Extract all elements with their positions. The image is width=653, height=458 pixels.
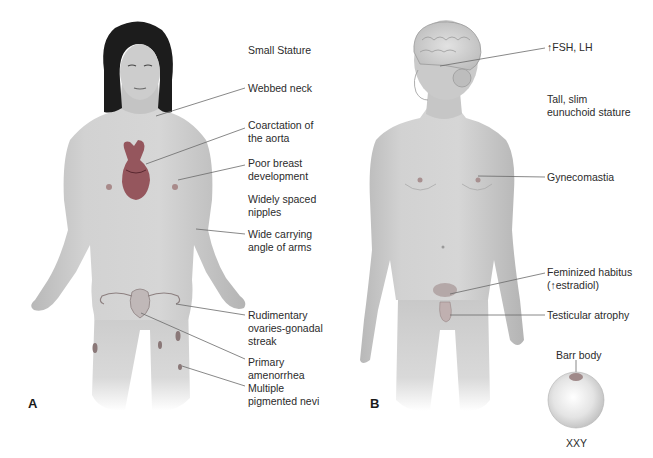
xxy-cell: [548, 372, 604, 428]
label-rudimentary-ovaries: Rudimentary ovaries-gonadal streak: [248, 309, 323, 348]
panel-letter-b: B: [370, 396, 379, 411]
label-small-stature: Small Stature: [248, 44, 311, 57]
label-pigmented-nevi: Multiple pigmented nevi: [248, 382, 319, 408]
female-figure: [31, 21, 245, 410]
male-nipple-right: [476, 178, 481, 183]
label-fsh-lh: ↑FSH, LH: [547, 41, 593, 54]
panel-letter-a: A: [28, 396, 37, 411]
female-face: [120, 44, 160, 100]
illustration-canvas: [0, 0, 653, 458]
label-webbed-neck: Webbed neck: [248, 82, 312, 95]
female-torso: [31, 100, 245, 320]
female-nipple-left: [106, 184, 112, 190]
male-nipple-left: [418, 178, 423, 183]
label-coarctation-aorta: Coarctation of the aorta: [248, 119, 313, 145]
label-widely-spaced-nipples: Widely spaced nipples: [248, 193, 316, 219]
cerebellum: [453, 69, 471, 87]
label-poor-breast: Poor breast development: [248, 157, 308, 183]
label-primary-amenorrhea: Primary amenorrhea: [248, 356, 305, 382]
label-barr-body: Barr body: [556, 349, 602, 362]
female-nipple-right: [172, 184, 178, 190]
barr-body: [569, 373, 583, 381]
label-carrying-angle: Wide carrying angle of arms: [248, 228, 312, 254]
label-feminized-habitus: Feminized habitus (↑estradiol): [547, 266, 632, 292]
label-testicular-atrophy: Testicular atrophy: [547, 309, 629, 322]
label-gynecomastia: Gynecomastia: [547, 171, 614, 184]
label-karyotype-xxy: XXY: [566, 437, 587, 450]
male-figure: [360, 20, 524, 411]
navel: [442, 246, 445, 249]
label-tall-stature: Tall, slim eunuchoid stature: [547, 93, 630, 119]
pubic-area: [433, 283, 457, 297]
